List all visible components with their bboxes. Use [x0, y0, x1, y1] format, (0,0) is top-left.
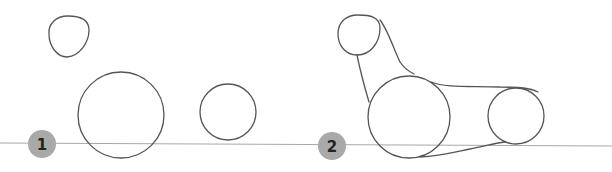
step-2-neck-back-contour	[380, 20, 414, 74]
step-2-badge-label: 2	[327, 138, 337, 156]
step-1-large-circle	[78, 72, 164, 158]
step-2-right-circle	[488, 88, 544, 144]
step-2-group	[338, 15, 544, 158]
step-2-back-contour	[431, 82, 538, 92]
step-2-large-circle	[368, 76, 450, 158]
step-2-belly-contour	[420, 142, 505, 157]
step-2-badge: 2	[318, 132, 346, 160]
step-1-small-blob	[49, 16, 89, 57]
sketch-canvas: 1 2	[0, 0, 612, 172]
step-1-right-circle	[200, 84, 256, 140]
step-1-badge-label: 1	[37, 136, 47, 154]
step-1-group	[49, 16, 256, 158]
step-1-badge: 1	[28, 130, 56, 158]
step-2-small-blob	[338, 15, 380, 55]
step-2-neck-front-contour	[357, 55, 369, 102]
